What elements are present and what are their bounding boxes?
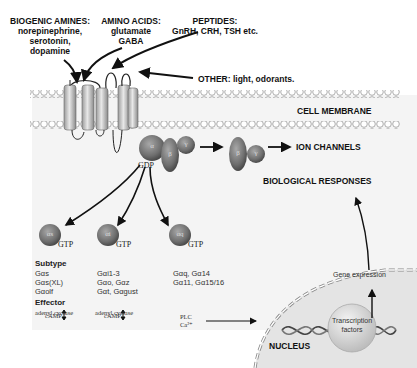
subtype-heading: Subtype [35, 259, 67, 268]
camp-1: cAMP [45, 312, 62, 320]
gamma-free-label: γ [250, 149, 262, 157]
subtype-col-2: Gαi1-3 Gαo, Gαz Gαt, Gαgust [97, 269, 138, 296]
alpha-i-gtp: GTP [116, 240, 131, 249]
peptides-label: PEPTIDES: GnRH, CRH, TSH etc. [170, 16, 260, 36]
subtype-col-1: Gαs Gαs(XL) Gαolf [35, 269, 63, 296]
other-ligands-label: OTHER: light, odorants. [198, 74, 294, 84]
gdp-label: GDP [138, 161, 154, 170]
alpha-q-gtp: GTP [188, 240, 203, 249]
effector-3: PLC [180, 313, 192, 321]
nucleus-label: NUCLEUS [269, 341, 310, 351]
gamma-subunit-label: γ [180, 140, 192, 148]
alpha-s-gtp: GTP [58, 240, 73, 249]
beta-free-label: β [232, 149, 244, 157]
cell-membrane-label: CELL MEMBRANE [297, 106, 371, 116]
subtype-col-3: Gαq, Gα14 Gα11, Gα15/16 [173, 269, 224, 287]
effector-3-ca: Ca²⁺ [180, 321, 193, 329]
camp-2: cAMP [104, 312, 121, 320]
ion-channels-label: ION CHANNELS [296, 142, 361, 152]
amino-acids-label: AMINO ACIDS: glutamate GABA [98, 16, 164, 46]
gene-expression-label: Gene expression [333, 270, 386, 279]
alpha-i-symbol: αi [100, 230, 116, 238]
alpha-s-symbol: αs [42, 230, 58, 238]
receptor-helices [64, 73, 138, 153]
biological-responses-label: BIOLOGICAL RESPONSES [263, 176, 371, 186]
effector-heading: Effector [35, 298, 65, 307]
biogenic-amines-label: BIOGENIC AMINES: norepinephrine, seroton… [8, 16, 92, 56]
alpha-q-symbol: αq [172, 230, 188, 238]
alpha-subunit-label: α [146, 142, 158, 150]
beta-subunit-label: β [164, 150, 176, 158]
transcription-factors-label: Transcription factors [330, 316, 374, 334]
